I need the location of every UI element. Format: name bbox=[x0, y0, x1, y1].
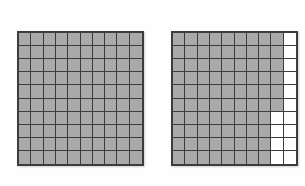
grid-cell bbox=[235, 151, 247, 164]
grid-cell bbox=[259, 151, 271, 164]
grid-cell bbox=[210, 59, 222, 72]
grid-cell bbox=[173, 33, 185, 46]
grid-cell bbox=[93, 72, 105, 85]
grid-cell bbox=[259, 85, 271, 98]
grid-cell bbox=[68, 112, 80, 125]
grid-cell bbox=[185, 46, 197, 59]
grid-cell bbox=[235, 138, 247, 151]
grid-cell bbox=[81, 85, 93, 98]
grid-cell bbox=[235, 46, 247, 59]
grid-cell bbox=[31, 138, 43, 151]
grid-cell bbox=[173, 125, 185, 138]
grid-cell bbox=[235, 85, 247, 98]
grid-cell bbox=[19, 125, 31, 138]
grid-cell bbox=[81, 33, 93, 46]
grid-cell bbox=[247, 33, 259, 46]
grid-cell bbox=[185, 85, 197, 98]
grid-cell bbox=[81, 46, 93, 59]
grid-cell bbox=[173, 72, 185, 85]
grid-cell bbox=[68, 99, 80, 112]
grid-cell bbox=[44, 72, 56, 85]
grid-cell bbox=[81, 151, 93, 164]
grid-cell bbox=[185, 112, 197, 125]
grid-cell bbox=[105, 85, 117, 98]
grid-cell bbox=[81, 112, 93, 125]
grid-cell bbox=[56, 59, 68, 72]
grid-cell bbox=[247, 151, 259, 164]
grid-cell bbox=[210, 112, 222, 125]
grid-cell bbox=[235, 112, 247, 125]
grid-cell bbox=[271, 72, 283, 85]
grid-cell bbox=[247, 138, 259, 151]
grid-cell bbox=[130, 59, 142, 72]
grid-cell bbox=[210, 46, 222, 59]
grid-cell bbox=[185, 59, 197, 72]
grid-cell bbox=[68, 72, 80, 85]
grid-cell bbox=[235, 33, 247, 46]
grid-cell bbox=[117, 125, 129, 138]
grid-cell bbox=[68, 59, 80, 72]
grid-cell bbox=[259, 112, 271, 125]
grid-cell bbox=[173, 138, 185, 151]
grid-cell bbox=[198, 112, 210, 125]
grid-cell bbox=[68, 46, 80, 59]
grid-cell bbox=[19, 46, 31, 59]
grid-cell bbox=[185, 33, 197, 46]
grid-cell bbox=[105, 99, 117, 112]
grid-cell bbox=[185, 125, 197, 138]
grid-cell bbox=[56, 46, 68, 59]
grid-cell bbox=[284, 59, 296, 72]
grid-cell bbox=[247, 125, 259, 138]
grid-cell bbox=[222, 99, 234, 112]
grid-cell bbox=[198, 59, 210, 72]
grid-cell bbox=[247, 99, 259, 112]
grid-cell bbox=[235, 59, 247, 72]
grid-cell bbox=[93, 125, 105, 138]
grid-cell bbox=[68, 85, 80, 98]
grid-cell bbox=[198, 46, 210, 59]
grid-cell bbox=[259, 59, 271, 72]
grid-cell bbox=[130, 138, 142, 151]
grid-cell bbox=[44, 85, 56, 98]
grid-cell bbox=[44, 112, 56, 125]
grid-cell bbox=[56, 33, 68, 46]
grid-cell bbox=[173, 99, 185, 112]
grid-cell bbox=[185, 72, 197, 85]
grid-cell bbox=[31, 59, 43, 72]
grid-cell bbox=[185, 138, 197, 151]
grid-cell bbox=[19, 138, 31, 151]
grid-cell bbox=[68, 151, 80, 164]
grid-cell bbox=[31, 46, 43, 59]
grid-cell bbox=[210, 151, 222, 164]
grid-cell bbox=[81, 125, 93, 138]
grid-cell bbox=[93, 112, 105, 125]
grid-cell bbox=[247, 59, 259, 72]
grid-cell bbox=[93, 99, 105, 112]
grid-cell bbox=[222, 85, 234, 98]
grid-cell bbox=[185, 151, 197, 164]
grid-cell bbox=[44, 99, 56, 112]
grid-cell bbox=[56, 112, 68, 125]
grid-cell bbox=[198, 99, 210, 112]
grid-cell bbox=[105, 138, 117, 151]
grid-cell bbox=[259, 125, 271, 138]
grid-cell bbox=[271, 59, 283, 72]
grid-cell bbox=[235, 125, 247, 138]
grid-cell bbox=[222, 46, 234, 59]
grid-cell bbox=[19, 33, 31, 46]
grid-cell bbox=[93, 59, 105, 72]
grid-cell bbox=[247, 46, 259, 59]
grid-cell bbox=[210, 138, 222, 151]
grid-cell bbox=[117, 112, 129, 125]
grid-cell bbox=[210, 72, 222, 85]
grid-cell bbox=[56, 99, 68, 112]
grid-cell bbox=[81, 72, 93, 85]
grid-cell bbox=[31, 85, 43, 98]
grid-cell bbox=[222, 59, 234, 72]
grid-cell bbox=[222, 72, 234, 85]
grid-cell bbox=[117, 59, 129, 72]
grid-cell bbox=[31, 72, 43, 85]
grid-cell bbox=[247, 85, 259, 98]
grid-cell bbox=[259, 99, 271, 112]
grid-cell bbox=[284, 33, 296, 46]
